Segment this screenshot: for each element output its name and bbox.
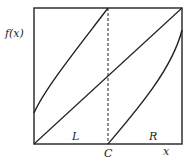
right-interval-label: R xyxy=(148,130,157,143)
left-branch-curve xyxy=(34,8,108,113)
critical-point-label: C xyxy=(104,147,113,160)
left-interval-label: L xyxy=(71,130,79,143)
x-axis-label: x xyxy=(163,145,170,158)
map-diagram: f(x) L R C x xyxy=(0,0,194,161)
right-branch-curve xyxy=(108,30,182,144)
y-axis-label: f(x) xyxy=(4,27,24,40)
